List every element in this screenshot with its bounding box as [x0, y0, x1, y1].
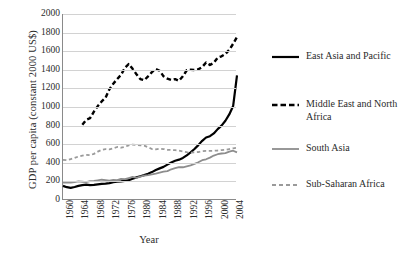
- x-axis-title: Year: [62, 234, 236, 245]
- y-tick-label: 1800: [41, 28, 60, 38]
- y-tick-label: 1600: [41, 46, 60, 56]
- y-tick-label: 1000: [41, 102, 60, 112]
- y-tick-label: 1200: [41, 84, 60, 94]
- solid-black-line-icon: [272, 51, 299, 63]
- gridline: [63, 70, 236, 71]
- series-line: [82, 37, 237, 125]
- plot-area: [62, 14, 236, 200]
- y-tick-label: 0: [55, 195, 60, 205]
- gridline: [63, 88, 236, 89]
- y-tick-label: 2000: [41, 9, 60, 19]
- x-tick-label: 2000: [221, 200, 231, 219]
- x-tick-label: 1988: [174, 200, 184, 219]
- gridline: [63, 126, 236, 127]
- y-tick-label: 400: [46, 158, 60, 168]
- legend-item[interactable]: East Asia and Pacific: [272, 50, 414, 63]
- y-tick-label: 600: [46, 139, 60, 149]
- x-tick-label: 1984: [159, 200, 169, 219]
- y-tick-label: 1400: [41, 65, 60, 75]
- gridline: [63, 14, 236, 15]
- x-tick-label: 1976: [128, 200, 138, 219]
- y-tick-label: 200: [46, 177, 60, 187]
- x-tick-label: 1968: [97, 200, 107, 219]
- y-axis-tick-labels: 2000180016001400120010008006004002000: [22, 14, 60, 200]
- gridline: [63, 107, 236, 108]
- legend-label: South Asia: [306, 142, 414, 155]
- legend-item[interactable]: Sub-Saharan Africa: [272, 178, 414, 191]
- solid-gray-line-icon: [272, 143, 299, 155]
- legend-item[interactable]: South Asia: [272, 142, 414, 155]
- x-tick-label: 1980: [143, 200, 153, 219]
- x-tick-label: 1964: [81, 200, 91, 219]
- gridline: [63, 163, 236, 164]
- x-tick-label: 1972: [112, 200, 122, 219]
- legend-label: Middle East and North Africa: [306, 98, 414, 123]
- gridline: [63, 51, 236, 52]
- x-tick-label: 1996: [205, 200, 215, 219]
- dashed-gray-line-icon: [272, 179, 299, 191]
- dashed-black-line-icon: [272, 99, 299, 111]
- series-line: [63, 75, 237, 187]
- y-tick-label: 800: [46, 121, 60, 131]
- x-tick-label: 2004: [236, 200, 246, 219]
- x-axis-tick-labels: 1960196419681972197619801984198819921996…: [62, 200, 236, 234]
- gridline: [63, 144, 236, 145]
- x-tick-label: 1960: [66, 200, 76, 219]
- x-tick-label: 1992: [190, 200, 200, 219]
- gridline: [63, 181, 236, 182]
- legend-label: East Asia and Pacific: [306, 50, 414, 63]
- gdp-per-capita-line-chart: GDP per capita (constant 2000 US$) 20001…: [0, 0, 417, 256]
- legend-item[interactable]: Middle East and North Africa: [272, 98, 414, 123]
- legend-label: Sub-Saharan Africa: [306, 178, 414, 191]
- gridline: [63, 33, 236, 34]
